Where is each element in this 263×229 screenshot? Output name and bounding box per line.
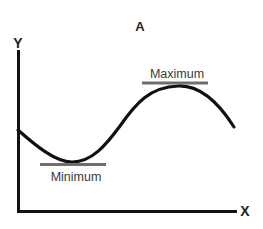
maximum-label: Maximum: [150, 67, 204, 81]
function-curve: [18, 86, 234, 162]
y-axis-label: Y: [13, 35, 23, 51]
diagram-title: A: [135, 19, 145, 34]
minimum-label: Minimum: [51, 170, 102, 184]
extrema-diagram: A Y X Maximum Minimum: [0, 0, 263, 229]
x-axis-label: X: [240, 203, 250, 219]
